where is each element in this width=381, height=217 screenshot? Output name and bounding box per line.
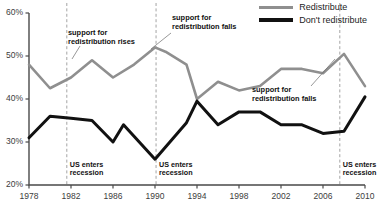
- annotation-leader-1: [151, 33, 171, 49]
- x-axis-label-1: 1982: [49, 191, 93, 201]
- legend-item-dont-redistribute: Don't redistribute: [259, 15, 367, 25]
- x-axis-label-0: 1978: [7, 191, 51, 201]
- x-axis-label-3: 1990: [133, 191, 177, 201]
- legend-label-dont-redistribute: Don't redistribute: [299, 15, 367, 25]
- legend-swatch-redistribute: [259, 6, 293, 9]
- y-axis-label-3: 30%: [0, 136, 23, 146]
- x-axis-label-7: 2006: [301, 191, 345, 201]
- y-axis-label-0: 60%: [0, 7, 23, 17]
- recession-label-0: US enters recession: [70, 161, 104, 178]
- series-line-dont-redistribute: [29, 97, 365, 159]
- y-axis-label-4: 20%: [0, 179, 23, 189]
- y-axis-label-1: 50%: [0, 50, 23, 60]
- legend-label-redistribute: Redistribute: [299, 2, 347, 12]
- x-axis-label-2: 1986: [91, 191, 135, 201]
- x-axis-label-8: 2010: [343, 191, 381, 201]
- x-axis-label-5: 1998: [217, 191, 261, 201]
- annotation-leader-0: [72, 46, 80, 59]
- x-axis-label-6: 2002: [259, 191, 303, 201]
- annotation-text-1: support for redistribution falls: [172, 14, 236, 31]
- recession-label-1: US enters recession: [159, 161, 193, 178]
- chart-legend: Redistribute Don't redistribute: [259, 2, 367, 25]
- annotation-text-0: support for redistribution rises: [68, 29, 135, 46]
- y-axis-label-2: 40%: [0, 93, 23, 103]
- recession-label-2: US enters recession: [343, 161, 377, 178]
- x-axis-label-4: 1994: [175, 191, 219, 201]
- legend-swatch-dont-redistribute: [259, 18, 293, 22]
- legend-item-redistribute: Redistribute: [259, 2, 367, 12]
- annotation-text-2: support for redistribution falls: [252, 86, 316, 103]
